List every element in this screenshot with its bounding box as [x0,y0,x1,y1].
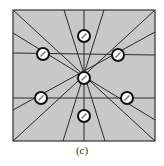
figure-caption: (c) [0,144,164,156]
star-network-diagram [0,0,164,142]
